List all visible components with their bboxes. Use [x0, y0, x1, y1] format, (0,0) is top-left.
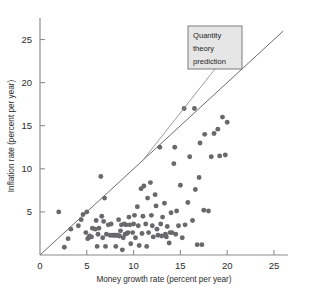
data-point: [146, 230, 151, 235]
annotation-leader-line: [143, 69, 215, 160]
annotation-line-1: Quantity: [193, 31, 221, 40]
data-point: [100, 235, 105, 240]
data-point: [109, 222, 114, 227]
data-point: [150, 223, 155, 228]
data-point: [66, 236, 71, 241]
data-point: [172, 145, 177, 150]
data-point: [183, 222, 188, 227]
data-point: [197, 175, 202, 180]
data-point: [89, 234, 94, 239]
data-point: [151, 234, 156, 239]
annotation-line-2: theory: [193, 44, 214, 53]
data-point: [145, 196, 150, 201]
x-tick-label-10: 10: [128, 260, 139, 271]
data-point: [76, 223, 81, 228]
data-point: [133, 235, 138, 240]
data-point: [148, 180, 153, 185]
data-point: [84, 209, 89, 214]
data-point: [140, 231, 145, 236]
data-point: [137, 243, 142, 248]
data-point: [128, 241, 133, 246]
annotation-quantity-theory-prediction: Quantity theory prediction: [143, 26, 242, 160]
data-point: [164, 234, 169, 239]
data-point: [83, 230, 88, 235]
x-tick-label-25: 25: [269, 260, 280, 271]
data-point: [202, 132, 207, 137]
axes: [40, 18, 288, 255]
x-tick-label-20: 20: [222, 260, 233, 271]
data-point: [143, 222, 148, 227]
data-point: [195, 242, 200, 247]
data-point: [120, 247, 125, 252]
data-point: [174, 209, 179, 214]
data-point: [62, 245, 67, 250]
data-points: [56, 106, 229, 252]
data-point: [193, 187, 198, 192]
data-point: [157, 145, 162, 150]
y-tick-label-5: 5: [27, 206, 32, 217]
data-point: [56, 209, 61, 214]
data-point: [167, 240, 172, 245]
y-tick-label-10: 10: [21, 163, 32, 174]
data-point: [95, 244, 100, 249]
scatter-plot: 0510152025 510152025 Quantity theory pre…: [0, 0, 312, 292]
data-point: [118, 228, 123, 233]
data-point: [98, 174, 103, 179]
data-point: [126, 230, 131, 235]
chart-figure: 0510152025 510152025 Quantity theory pre…: [0, 0, 312, 292]
data-point: [113, 244, 118, 249]
data-point: [185, 200, 190, 205]
data-point: [160, 215, 165, 220]
data-point: [176, 223, 181, 228]
data-point: [135, 204, 140, 209]
data-point: [141, 184, 146, 189]
data-point: [212, 131, 217, 136]
annotation-line-3: prediction: [193, 57, 226, 66]
data-point: [99, 214, 104, 219]
x-axis-ticks: 0510152025: [37, 250, 279, 271]
data-point: [169, 210, 174, 215]
data-point: [116, 217, 121, 222]
x-axis-title: Money growth rate (percent per year): [96, 275, 231, 284]
data-point: [136, 223, 141, 228]
data-point: [206, 209, 211, 214]
data-point: [103, 244, 108, 249]
data-point: [140, 214, 145, 219]
data-point: [173, 232, 178, 237]
data-point: [154, 203, 159, 208]
data-point: [198, 141, 203, 146]
data-point: [101, 219, 106, 224]
data-point: [94, 218, 99, 223]
data-point: [187, 154, 192, 159]
reference-line-45-degree: [40, 31, 283, 255]
y-axis-title: Inflation rate (percent per year): [7, 80, 16, 193]
y-tick-label-15: 15: [21, 120, 32, 131]
y-axis-ticks: 510152025: [21, 34, 45, 217]
data-point: [180, 235, 185, 240]
data-point: [158, 222, 163, 227]
x-tick-label-0: 0: [37, 260, 42, 271]
data-point: [215, 127, 220, 132]
data-point: [225, 120, 230, 125]
data-point: [199, 242, 204, 247]
data-point: [79, 217, 84, 222]
data-point: [209, 154, 214, 159]
data-point: [130, 230, 135, 235]
data-point: [178, 183, 183, 188]
data-point: [220, 115, 225, 120]
data-point: [102, 196, 107, 201]
data-point: [217, 153, 222, 158]
quantity-theory-line: [40, 31, 283, 255]
data-point: [126, 215, 131, 220]
data-point: [131, 222, 136, 227]
data-point: [201, 208, 206, 213]
x-tick-label-15: 15: [175, 260, 186, 271]
data-point: [97, 226, 102, 231]
data-point: [192, 106, 197, 111]
data-point: [149, 213, 154, 218]
data-point: [155, 227, 160, 232]
data-point: [132, 213, 137, 218]
data-point: [68, 227, 73, 232]
data-point: [190, 218, 195, 223]
data-point: [153, 192, 158, 197]
